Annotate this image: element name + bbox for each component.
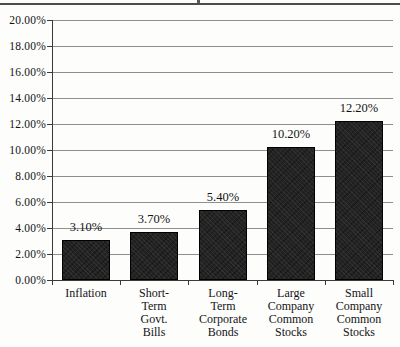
y-tick-label: 12.00% — [2, 117, 46, 131]
y-tick-label: 14.00% — [2, 91, 46, 105]
y-tick-label: 10.00% — [2, 143, 46, 157]
gridline — [52, 46, 393, 47]
x-tick — [257, 280, 258, 285]
y-tick-label: 6.00% — [2, 195, 46, 209]
x-tick — [325, 280, 326, 285]
x-tick — [52, 280, 53, 285]
bar — [335, 121, 383, 280]
bar — [199, 210, 247, 280]
y-tick-label: 2.00% — [2, 247, 46, 261]
category-label: Short- Term Govt. Bills — [114, 287, 194, 339]
bar-value-label: 10.20% — [251, 127, 331, 141]
y-tick-label: 20.00% — [2, 13, 46, 27]
chart-page: 0.00%2.00%4.00%6.00%8.00%10.00%12.00%14.… — [0, 0, 400, 347]
x-tick — [393, 280, 394, 285]
bar — [267, 147, 315, 280]
y-tick-label: 16.00% — [2, 65, 46, 79]
category-label: Small Company Common Stocks — [319, 287, 399, 339]
bar-value-label: 12.20% — [319, 101, 399, 115]
x-tick — [188, 280, 189, 285]
y-tick-label: 0.00% — [2, 273, 46, 287]
y-tick-label: 4.00% — [2, 221, 46, 235]
bar-value-label: 5.40% — [183, 190, 263, 204]
bar-value-label: 3.70% — [114, 212, 194, 226]
y-axis-line — [52, 20, 53, 280]
x-axis-line — [52, 280, 394, 281]
y-tick-label: 18.00% — [2, 39, 46, 53]
bar — [62, 240, 110, 280]
chart-area: 0.00%2.00%4.00%6.00%8.00%10.00%12.00%14.… — [0, 0, 400, 347]
x-tick — [120, 280, 121, 285]
gridline — [52, 72, 393, 73]
gridline — [52, 20, 393, 21]
gridline — [52, 98, 393, 99]
bar — [130, 232, 178, 280]
y-tick-label: 8.00% — [2, 169, 46, 183]
